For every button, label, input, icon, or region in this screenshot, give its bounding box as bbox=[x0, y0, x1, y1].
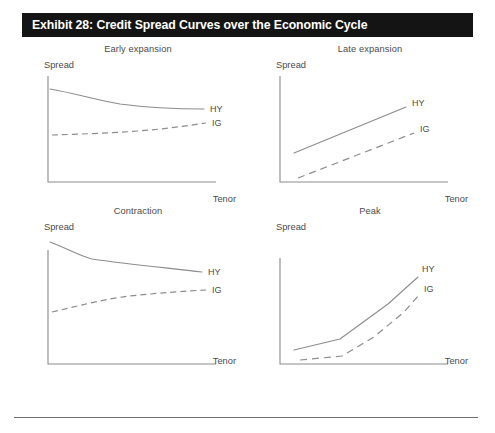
x-axis-label-early-expansion: Tenor bbox=[213, 194, 236, 204]
series-line-hy-peak bbox=[294, 277, 418, 350]
series-line-hy-early-expansion bbox=[50, 89, 204, 109]
series-label-hy-contraction: HY bbox=[208, 267, 221, 277]
series-line-ig-late-expansion bbox=[298, 133, 414, 178]
chart-panel-contraction: Contraction Spread HY IG Tenor bbox=[26, 206, 250, 366]
x-axis-label-peak: Tenor bbox=[445, 356, 468, 366]
x-axis-label-late-expansion: Tenor bbox=[445, 194, 468, 204]
series-line-ig-peak bbox=[300, 294, 420, 360]
series-line-ig-early-expansion bbox=[52, 123, 206, 135]
plot-area-contraction: HY IG bbox=[26, 206, 250, 366]
exhibit-title: Exhibit 28: Credit Spread Curves over th… bbox=[32, 18, 367, 32]
plot-area-peak: HY IG bbox=[258, 206, 482, 366]
exhibit-title-bar: Exhibit 28: Credit Spread Curves over th… bbox=[22, 13, 473, 37]
series-label-hy-peak: HY bbox=[422, 264, 435, 274]
series-label-hy-early-expansion: HY bbox=[210, 104, 223, 114]
footer-divider bbox=[14, 417, 478, 418]
series-label-ig-peak: IG bbox=[424, 284, 434, 294]
x-axis-label-contraction: Tenor bbox=[213, 356, 236, 366]
plot-area-late-expansion: HY IG bbox=[258, 44, 482, 204]
series-line-hy-late-expansion bbox=[294, 107, 406, 153]
chart-panel-peak: Peak Spread HY IG Tenor bbox=[258, 206, 482, 366]
series-line-hy-contraction bbox=[50, 242, 202, 272]
series-label-ig-contraction: IG bbox=[212, 285, 222, 295]
plot-area-early-expansion: HY IG bbox=[26, 44, 250, 204]
axis-lines-early-expansion bbox=[48, 76, 216, 182]
chart-panel-late-expansion: Late expansion Spread HY IG Tenor bbox=[258, 44, 482, 204]
chart-panel-early-expansion: Early expansion Spread HY IG Tenor bbox=[26, 44, 250, 204]
series-label-hy-late-expansion: HY bbox=[412, 98, 425, 108]
series-label-ig-late-expansion: IG bbox=[420, 124, 430, 134]
series-line-ig-contraction bbox=[52, 290, 206, 312]
series-label-ig-early-expansion: IG bbox=[212, 118, 222, 128]
